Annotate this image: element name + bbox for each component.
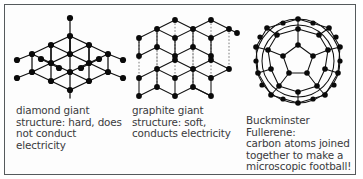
graphite-atoms [136,17,240,99]
carbon-allotropes-figure: diamond giant structure: hard, does not … [0,0,363,179]
fullerene-atoms [253,16,343,106]
buckminsterfullerene-diagram [241,11,357,111]
caption-fullerene: Buckminster Fullerene: carbon atoms join… [246,115,362,173]
panel-diamond: diamond giant structure: hard, does not … [11,11,129,171]
graphite-layers-diagram [127,11,243,103]
caption-graphite: graphite giant structure: soft, conducts… [132,105,244,140]
figure-frame: diamond giant structure: hard, does not … [4,4,356,175]
graphite-lower-layer [139,60,229,96]
interlayer-bonds [139,20,229,87]
caption-diamond: diamond giant structure: hard, does not … [16,105,128,151]
diamond-lattice-diagram [11,11,129,103]
panel-graphite: graphite giant structure: soft, conducts… [127,11,243,171]
graphite-upper-layer [139,20,237,56]
panel-fullerene: Buckminster Fullerene: carbon atoms join… [241,11,357,171]
